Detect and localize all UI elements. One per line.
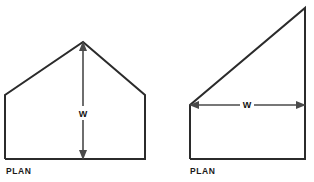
diagram-canvas: W W bbox=[0, 0, 314, 182]
left-figure-caption: PLAN bbox=[6, 166, 32, 176]
left-figure-group: W bbox=[5, 41, 145, 160]
right-figure-group: W bbox=[189, 8, 306, 159]
left-dimension-group: W bbox=[76, 41, 90, 160]
left-dimension-label: W bbox=[79, 109, 88, 119]
right-dimension-group: W bbox=[189, 98, 306, 112]
right-figure-outline bbox=[190, 8, 305, 159]
right-figure-caption: PLAN bbox=[190, 166, 216, 176]
left-figure-outline bbox=[5, 42, 145, 159]
left-dimension-arrowhead-up-icon bbox=[79, 41, 87, 51]
right-dimension-label: W bbox=[243, 100, 252, 110]
